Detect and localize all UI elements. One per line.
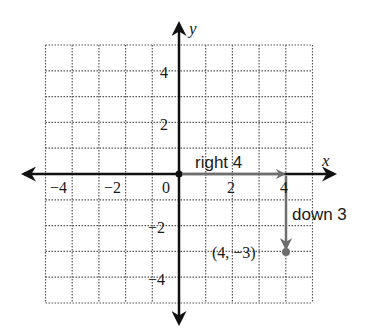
x-tick-label: −2 — [104, 179, 121, 196]
y-tick-label: 4 — [160, 64, 168, 81]
coordinate-plane-diagram: y x 0 −4 −2 2 4 4 2 −2 −4 right 4 down 3… — [0, 0, 390, 335]
y-tick-label: 2 — [160, 116, 168, 133]
x-tick-label: 2 — [227, 179, 235, 196]
move-label-right: right 4 — [195, 153, 242, 172]
x-tick-label: 4 — [280, 179, 288, 196]
point-label: (4, −3) — [212, 244, 256, 262]
y-tick-label: −2 — [148, 219, 165, 236]
y-tick-label: −4 — [148, 271, 165, 288]
origin-label: 0 — [162, 179, 170, 196]
plotted-point — [282, 248, 290, 256]
x-axis-label: x — [321, 151, 330, 170]
x-tick-label: −4 — [50, 179, 67, 196]
move-label-down: down 3 — [292, 205, 347, 224]
y-axis-label: y — [187, 19, 197, 38]
origin-point — [176, 171, 183, 178]
